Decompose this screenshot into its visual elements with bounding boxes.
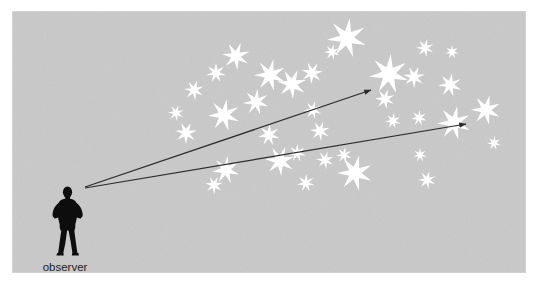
panel-texture [13,12,525,272]
observer-label: observer [43,261,88,273]
starfield-diagram-svg: observer [0,0,534,286]
figure-root: observer [0,0,534,286]
